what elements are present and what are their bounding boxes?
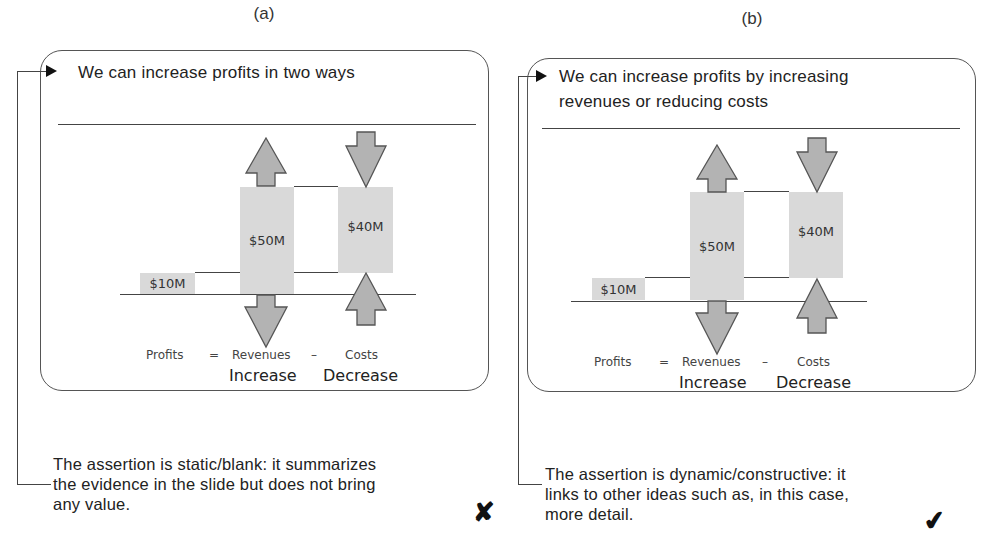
label-revenues: Revenues: [232, 348, 291, 362]
caption-a: The assertion is static/blank: it summar…: [53, 454, 376, 514]
label-equals: =: [209, 348, 219, 362]
connector-revenue-cost-bottom: [744, 277, 789, 278]
label-increase: Increase: [229, 366, 297, 385]
label-profits: Profits: [146, 348, 184, 362]
connector-revenue-cost-top: [744, 191, 789, 192]
cross-mark-icon: ✘: [473, 497, 495, 528]
connector-revenue-cost-bottom: [294, 272, 338, 273]
connector-a-top: [17, 71, 47, 72]
caption-b: The assertion is dynamic/constructive: i…: [545, 464, 849, 524]
label-costs: Costs: [797, 355, 830, 369]
profits-bar: $10M: [140, 273, 195, 294]
arrow-up-icon: [797, 279, 837, 333]
label-equals: =: [659, 355, 669, 369]
connector-a-bottom: [17, 484, 51, 485]
pointer-arrow-icon: [46, 65, 57, 77]
pointer-arrow-icon: [536, 70, 547, 82]
arrow-down-icon: [245, 295, 287, 347]
slide-a-title: We can increase profits in two ways: [78, 60, 355, 85]
arrow-up-icon: [246, 138, 286, 186]
label-decrease: Decrease: [776, 373, 851, 392]
slide-b-title-line-2: revenues or reducing costs: [559, 89, 849, 114]
label-minus: –: [311, 348, 317, 362]
profits-bar: $10M: [592, 278, 645, 300]
arrow-down-icon: [696, 301, 738, 354]
revenues-bar: $50M: [240, 187, 294, 294]
arrow-up-icon: [697, 145, 737, 192]
panel-a-label: (a): [244, 4, 284, 24]
caption-b-line-2: links to other ideas such as, in this ca…: [545, 484, 849, 504]
costs-bar: $40M: [338, 187, 393, 273]
caption-a-line-1: The assertion is static/blank: it summar…: [53, 454, 376, 474]
slide-b-title-line-1: We can increase profits by increasing: [559, 64, 849, 89]
revenues-bar: $50M: [690, 192, 744, 300]
caption-a-line-2: the evidence in the slide but does not b…: [53, 474, 376, 494]
connector-profit-revenue: [195, 272, 240, 273]
caption-b-line-3: more detail.: [545, 504, 849, 524]
connector-revenue-cost-top: [294, 186, 338, 187]
label-increase: Increase: [679, 373, 747, 392]
slide-b-title: We can increase profits by increasing re…: [559, 64, 849, 114]
label-profits: Profits: [594, 355, 632, 369]
arrow-up-icon: [346, 273, 386, 325]
connector-b-top: [518, 76, 537, 77]
panel-b-label: (b): [732, 9, 772, 29]
connector-profit-revenue: [645, 277, 690, 278]
check-mark-icon: ✔: [922, 505, 948, 539]
caption-a-line-3: any value.: [53, 494, 376, 514]
connector-b-bottom: [518, 484, 542, 485]
arrow-down-icon: [797, 138, 837, 192]
connector-a-vertical: [17, 71, 18, 485]
slide-a-divider: [58, 124, 476, 125]
label-costs: Costs: [345, 348, 378, 362]
label-revenues: Revenues: [682, 355, 741, 369]
arrow-down-icon: [346, 132, 386, 187]
label-minus: –: [762, 355, 768, 369]
caption-b-line-1: The assertion is dynamic/constructive: i…: [545, 464, 849, 484]
slide-b-divider: [542, 128, 960, 129]
costs-bar: $40M: [789, 192, 843, 278]
label-decrease: Decrease: [323, 366, 398, 385]
connector-b-vertical: [518, 76, 519, 484]
